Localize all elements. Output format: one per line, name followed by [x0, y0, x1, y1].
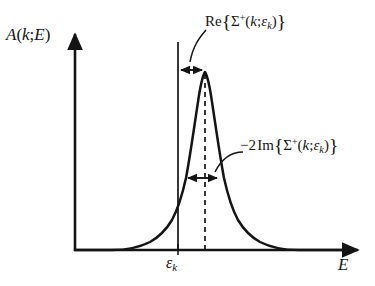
im-brace-close: } — [329, 135, 338, 156]
annotation-re-sigma: Re{Σ+(k;εk)} — [205, 12, 286, 32]
spectral-function-figure: A(k;E) E εk Re{Σ+(k;εk)} −2 Im{Σ+(k;εk)} — [0, 0, 375, 286]
im-sigma-glyph: Σ — [283, 137, 292, 153]
y-axis-label-fn: A — [6, 25, 16, 44]
im-brace-open: { — [274, 135, 283, 156]
epsilon-subscript: k — [172, 261, 177, 273]
re-sigma-leader-line — [190, 30, 206, 62]
im-prefix: Im — [257, 137, 274, 153]
annotation-im-sigma: −2 Im{Σ+(k;εk)} — [240, 136, 338, 156]
x-tick-label-epsilon-k: εk — [166, 255, 177, 273]
spectral-function-curve — [75, 72, 352, 250]
y-axis-label-arg1: k — [22, 25, 30, 44]
y-axis-label-arg2: E — [34, 25, 44, 44]
im-factor: 2 — [248, 137, 256, 153]
y-axis-label: A(k;E) — [6, 26, 50, 43]
re-brace-close: } — [277, 11, 286, 32]
x-axis-label: E — [338, 256, 348, 273]
re-brace-open: { — [222, 11, 231, 32]
re-prefix: Re — [205, 13, 222, 29]
y-axis-label-close: ) — [45, 25, 51, 44]
re-sigma-glyph: Σ — [231, 13, 240, 29]
